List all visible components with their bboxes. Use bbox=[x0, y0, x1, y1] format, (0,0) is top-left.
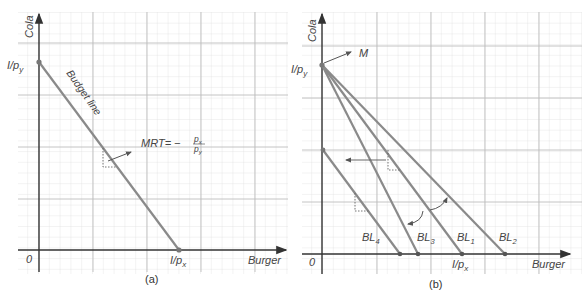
bl2-x-intercept-point bbox=[503, 252, 508, 257]
y-intercept-point-a bbox=[36, 59, 41, 64]
bl4-x-intercept-point bbox=[398, 252, 403, 257]
y-axis-label-b: Cola bbox=[306, 19, 318, 42]
grid-b bbox=[302, 12, 582, 274]
panel-a: Cola I/py Budget line MRT= − px py 0 I/p… bbox=[7, 12, 288, 285]
mrt-label: MRT= − bbox=[141, 137, 181, 149]
x-intercept-point-a bbox=[176, 247, 181, 252]
y-axis-label-a: Cola bbox=[23, 15, 35, 38]
caption-a: (a) bbox=[145, 273, 158, 285]
x-axis-label-b: Burger bbox=[532, 258, 566, 270]
origin-label-a: 0 bbox=[26, 253, 33, 265]
origin-label-b: 0 bbox=[309, 256, 316, 268]
y-intercept-point-b bbox=[319, 62, 324, 67]
m-label: M bbox=[359, 47, 369, 59]
budget-line-diagram: Cola I/py Budget line MRT= − px py 0 I/p… bbox=[0, 0, 584, 300]
bl4-y-intercept-point bbox=[321, 148, 326, 153]
panel-b: Cola I/py M BL4 BL3 BL1 BL2 0 I/px Burge… bbox=[291, 12, 582, 290]
bl1-x-intercept-point bbox=[460, 252, 465, 257]
bl3-x-intercept-point bbox=[416, 252, 421, 257]
caption-b: (b) bbox=[429, 278, 442, 290]
x-axis-label-a: Burger bbox=[248, 254, 282, 266]
